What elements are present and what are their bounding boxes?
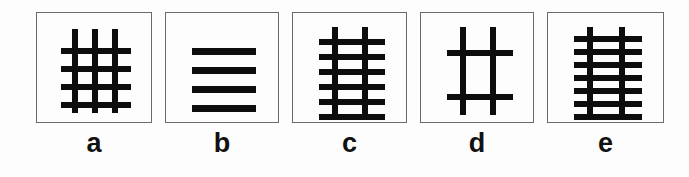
panel-label-e: e xyxy=(547,126,664,160)
panel-row xyxy=(36,12,664,123)
horizontal-line xyxy=(192,86,256,93)
horizontal-line xyxy=(574,101,642,107)
horizontal-line xyxy=(574,62,642,68)
labels-row: a b c d e xyxy=(36,126,664,170)
horizontal-line xyxy=(319,54,385,60)
vertical-line xyxy=(587,27,593,117)
vertical-line xyxy=(112,29,118,113)
stimulus-figure: a b c d e xyxy=(0,0,689,177)
vertical-line xyxy=(490,27,496,115)
vertical-line xyxy=(72,29,78,113)
panel-c-box xyxy=(292,12,407,123)
vertical-line xyxy=(619,27,625,117)
grating-pattern-b xyxy=(166,13,278,122)
horizontal-line xyxy=(319,39,385,45)
grating-pattern-e xyxy=(548,13,663,122)
panel-label-c: c xyxy=(292,126,407,160)
horizontal-line xyxy=(447,94,513,100)
panel-cell-d xyxy=(420,12,534,123)
horizontal-line xyxy=(574,88,642,94)
horizontal-line xyxy=(447,50,513,56)
horizontal-line xyxy=(574,114,642,120)
panel-a-box xyxy=(36,12,152,123)
horizontal-line xyxy=(574,36,642,42)
horizontal-line xyxy=(192,67,256,74)
panel-label-a: a xyxy=(36,126,152,160)
panel-d-box xyxy=(420,12,534,123)
panel-cell-e xyxy=(547,12,664,123)
panel-label-b: b xyxy=(165,126,279,160)
panel-cell-c xyxy=(292,12,407,123)
horizontal-line xyxy=(319,84,385,90)
horizontal-line xyxy=(319,99,385,105)
grating-pattern-c xyxy=(293,13,406,122)
vertical-line xyxy=(362,27,368,117)
horizontal-line xyxy=(319,114,385,120)
vertical-line xyxy=(332,27,338,117)
horizontal-line xyxy=(574,75,642,81)
panel-e-box xyxy=(547,12,664,123)
vertical-line xyxy=(92,29,98,113)
horizontal-line xyxy=(192,105,256,112)
vertical-line xyxy=(460,27,466,115)
horizontal-line xyxy=(192,48,256,55)
grating-pattern-a xyxy=(37,13,151,122)
panel-label-d: d xyxy=(420,126,534,160)
panel-b-box xyxy=(165,12,279,123)
panel-cell-b xyxy=(165,12,279,123)
panel-cell-a xyxy=(36,12,152,123)
horizontal-line xyxy=(574,49,642,55)
horizontal-line xyxy=(319,69,385,75)
grating-pattern-d xyxy=(421,13,533,122)
